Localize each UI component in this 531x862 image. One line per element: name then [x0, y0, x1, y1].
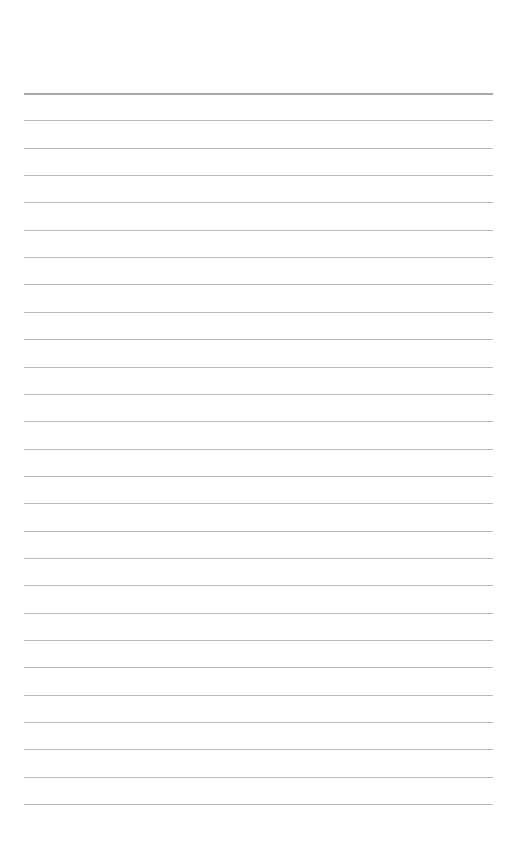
ruled-line — [24, 503, 493, 504]
ruled-line — [24, 339, 493, 340]
lined-paper-page — [0, 0, 531, 862]
ruled-line — [24, 93, 493, 95]
ruled-line — [24, 667, 493, 668]
ruled-line — [24, 367, 493, 368]
ruled-line — [24, 531, 493, 532]
ruled-line — [24, 120, 493, 121]
ruled-line — [24, 175, 493, 176]
ruled-line — [24, 449, 493, 450]
ruled-line — [24, 230, 493, 231]
ruled-line — [24, 257, 493, 258]
ruled-line — [24, 695, 493, 696]
ruled-line — [24, 777, 493, 778]
ruled-line — [24, 585, 493, 586]
ruled-line — [24, 202, 493, 203]
ruled-line — [24, 421, 493, 422]
ruled-line — [24, 284, 493, 285]
ruled-line — [24, 640, 493, 641]
ruled-line — [24, 394, 493, 395]
ruled-line — [24, 749, 493, 750]
ruled-line — [24, 476, 493, 477]
ruled-line — [24, 613, 493, 614]
ruled-line — [24, 312, 493, 313]
ruled-line — [24, 558, 493, 559]
ruled-line — [24, 804, 493, 805]
ruled-line — [24, 722, 493, 723]
ruled-line — [24, 148, 493, 149]
